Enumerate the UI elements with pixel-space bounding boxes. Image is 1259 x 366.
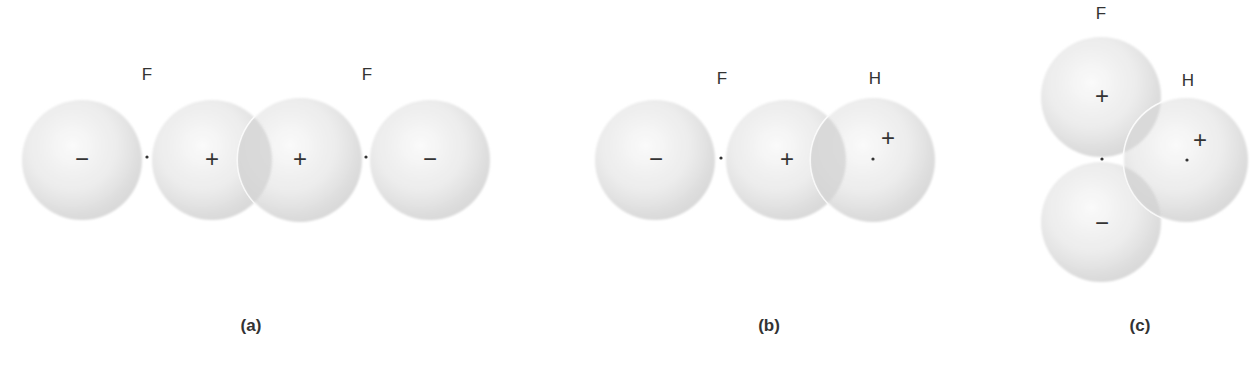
panel-a — [22, 97, 490, 224]
orbital-overlap-diagram: −++−−+++−+ — [0, 0, 1259, 366]
plus-sign-icon: + — [205, 145, 219, 172]
atom-label-f: F — [717, 70, 727, 87]
panel-c — [1041, 37, 1250, 282]
plus-sign-icon: + — [1193, 126, 1207, 153]
minus-sign-icon: − — [1095, 209, 1109, 236]
plus-sign-icon: + — [1095, 82, 1109, 109]
panel-label-c: (c) — [1130, 317, 1151, 334]
atom-label-h: H — [1182, 72, 1194, 89]
minus-sign-icon: − — [75, 145, 89, 172]
nucleus-dot — [719, 156, 722, 159]
nucleus-dot — [871, 157, 874, 160]
atom-label-f: F — [1096, 5, 1106, 22]
minus-sign-icon: − — [649, 145, 663, 172]
minus-sign-icon: − — [423, 145, 437, 172]
nucleus-dot — [145, 155, 148, 158]
nucleus-dot — [1100, 157, 1103, 160]
panel-b — [595, 97, 937, 224]
panel-label-a: (a) — [241, 317, 262, 334]
plus-sign-icon: + — [293, 145, 307, 172]
nucleus-dot — [1185, 158, 1188, 161]
atom-label-h: H — [869, 70, 881, 87]
panel-label-b: (b) — [758, 317, 780, 334]
atom-label-f: F — [362, 66, 372, 83]
plus-sign-icon: + — [780, 145, 794, 172]
plus-sign-icon: + — [881, 124, 895, 151]
nucleus-dot — [364, 155, 367, 158]
atom-label-f: F — [142, 66, 152, 83]
